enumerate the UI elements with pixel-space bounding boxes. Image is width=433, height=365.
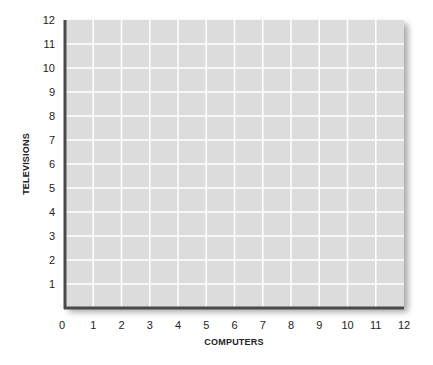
x-tick-label: 2 <box>107 319 137 331</box>
y-tick-label: 9 <box>25 86 55 98</box>
x-tick-label: 4 <box>163 319 193 331</box>
x-tick-label: 6 <box>220 319 250 331</box>
y-tick-label: 8 <box>25 110 55 122</box>
x-tick-label: 1 <box>78 319 108 331</box>
y-tick-label: 4 <box>25 206 55 218</box>
y-tick-label: 10 <box>25 62 55 74</box>
y-tick-label: 2 <box>25 254 55 266</box>
x-tick-label: 11 <box>361 319 391 331</box>
y-axis-label: TELEVISIONS <box>21 133 31 195</box>
x-tick-label: 3 <box>135 319 165 331</box>
x-tick-label: 0 <box>47 319 77 331</box>
plot-area <box>0 0 433 365</box>
y-tick-label: 1 <box>25 278 55 290</box>
y-tick-label: 3 <box>25 230 55 242</box>
x-tick-label: 10 <box>333 319 363 331</box>
x-tick-label: 9 <box>304 319 334 331</box>
x-tick-label: 8 <box>276 319 306 331</box>
x-axis-label: COMPUTERS <box>204 337 263 347</box>
x-tick-label: 7 <box>248 319 278 331</box>
x-tick-label: 5 <box>191 319 221 331</box>
chart-container: 123456789101112 0123456789101112 TELEVIS… <box>0 0 433 365</box>
y-tick-label: 12 <box>25 14 55 26</box>
y-tick-label: 11 <box>25 38 55 50</box>
x-tick-label: 12 <box>389 319 419 331</box>
